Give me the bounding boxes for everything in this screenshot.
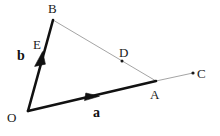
line-a-to-c	[156, 73, 193, 81]
point-label-a: A	[150, 88, 159, 101]
point-label-d: D	[119, 46, 128, 59]
point-label-e: E	[33, 38, 41, 51]
vector-label-b: b	[17, 49, 25, 63]
diagram-canvas	[0, 0, 220, 136]
point-label-c: C	[197, 67, 206, 80]
line-b-to-a	[53, 20, 156, 81]
vector-diagram-figure: O B A C D E a b	[0, 0, 220, 136]
point-dot-c	[191, 71, 194, 74]
vector-label-a: a	[93, 106, 100, 120]
point-label-b: B	[48, 2, 57, 15]
point-label-o: O	[7, 111, 16, 124]
